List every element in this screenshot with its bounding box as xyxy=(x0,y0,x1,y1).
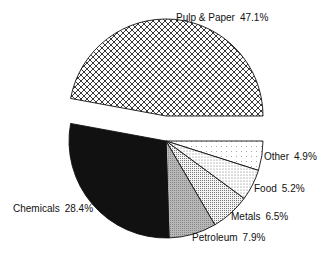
label-pulp-paper: Pulp & Paper47.1% xyxy=(176,12,268,23)
slice-pulp-paper xyxy=(71,19,263,116)
label-name: Food xyxy=(254,183,277,194)
label-pct: 6.5% xyxy=(265,211,288,222)
label-pct: 4.9% xyxy=(294,151,317,162)
label-name: Chemicals xyxy=(13,203,60,214)
label-name: Pulp & Paper xyxy=(176,12,235,23)
label-other: Other4.9% xyxy=(264,151,317,162)
label-food: Food5.2% xyxy=(254,183,305,194)
label-name: Metals xyxy=(231,211,260,222)
label-name: Other xyxy=(264,151,289,162)
label-metals: Metals6.5% xyxy=(231,211,288,222)
label-pct: 7.9% xyxy=(243,232,266,243)
label-petroleum: Petroleum7.9% xyxy=(192,232,265,243)
label-chemicals: Chemicals28.4% xyxy=(13,203,93,214)
pie-slices xyxy=(69,19,263,238)
label-pct: 47.1% xyxy=(240,12,268,23)
slice-chemicals xyxy=(69,123,169,238)
label-pct: 5.2% xyxy=(282,183,305,194)
label-name: Petroleum xyxy=(192,232,238,243)
label-pct: 28.4% xyxy=(65,203,93,214)
